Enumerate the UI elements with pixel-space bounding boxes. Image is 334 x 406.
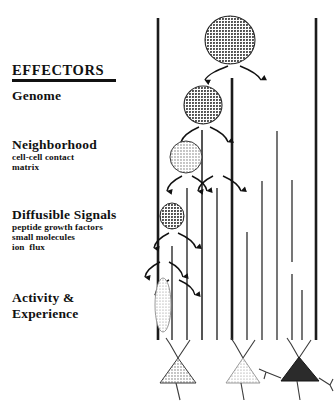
neuron-1 (160, 338, 196, 400)
cell-progenitor-2 (184, 86, 222, 124)
division-arrow (240, 66, 261, 80)
neuron-1-soma (160, 358, 196, 383)
division-arrow (205, 66, 228, 80)
lineage-svg (0, 0, 334, 406)
neuron-2-apical-dendrite (231, 338, 255, 358)
cell-precursor-5 (155, 278, 171, 332)
neuron-1-axon (176, 383, 180, 400)
branch-lines (158, 18, 316, 340)
cell-progenitor-4 (160, 203, 184, 229)
cell-progenitor-3 (170, 141, 202, 173)
neuron-2 (226, 338, 260, 400)
division-arrow (192, 176, 207, 191)
progenitor-cells (155, 16, 255, 332)
division-arrow (181, 127, 199, 142)
division-arrow (210, 127, 228, 142)
division-arrow (198, 176, 213, 191)
figure-canvas: EFFECTORS Genome Neighborhood cell-cell … (0, 0, 334, 406)
neuron-group (160, 338, 333, 400)
neuron-2-axon (241, 383, 244, 400)
neuron-2-soma (226, 358, 260, 383)
division-arrow (169, 262, 183, 277)
cell-progenitor-1 (205, 16, 255, 64)
division-arrow (167, 176, 182, 191)
neuron-3 (259, 338, 333, 400)
neuron-3-soma (281, 357, 319, 381)
neuron-3-axon (297, 381, 300, 400)
division-arrow (154, 233, 169, 248)
neuron-3-right-dendrite (319, 378, 333, 391)
neuron-1-apical-dendrite (166, 338, 190, 358)
neuron-3-apical-dendrite (287, 338, 311, 358)
neuron-3-left-dendrite (259, 369, 281, 379)
cell-lineage-diagram (0, 0, 334, 406)
